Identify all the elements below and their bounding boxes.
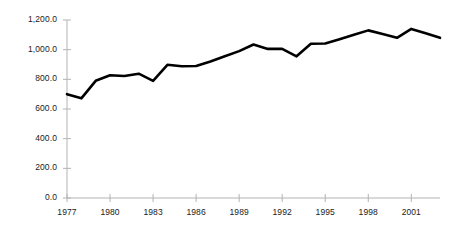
y-axis-tick-label: 0.0 bbox=[0, 192, 57, 202]
y-axis-tick-label: 600.0 bbox=[0, 103, 57, 113]
x-axis-tick-label: 1977 bbox=[47, 207, 87, 217]
x-axis-tick-label: 2001 bbox=[391, 207, 431, 217]
line-chart: 0.0200.0400.0600.0800.01,000.01,200.0 19… bbox=[0, 0, 454, 237]
y-axis-tick-label: 1,200.0 bbox=[0, 14, 57, 24]
x-axis-tick-label: 1998 bbox=[348, 207, 388, 217]
y-axis-tick-label: 800.0 bbox=[0, 73, 57, 83]
axes-group bbox=[67, 20, 440, 198]
y-axis-tick-label: 1,000.0 bbox=[0, 44, 57, 54]
x-axis-tick-label: 1983 bbox=[133, 207, 173, 217]
x-axis-tick-label: 1995 bbox=[305, 207, 345, 217]
x-axis-tick-label: 1986 bbox=[176, 207, 216, 217]
x-axis-tick-label: 1992 bbox=[262, 207, 302, 217]
x-axis-tick-label: 1980 bbox=[90, 207, 130, 217]
chart-plot-area bbox=[0, 0, 454, 237]
y-axis-tick-label: 200.0 bbox=[0, 162, 57, 172]
y-axis-tick-label: 400.0 bbox=[0, 133, 57, 143]
x-axis-tick-label: 1989 bbox=[219, 207, 259, 217]
data-series-line bbox=[67, 29, 440, 98]
